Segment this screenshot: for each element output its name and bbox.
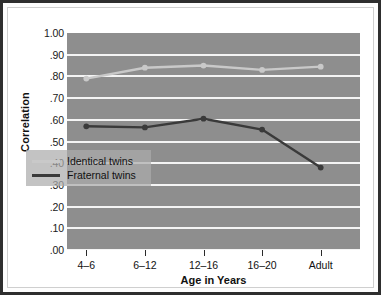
x-axis-tick-mark: [86, 250, 87, 256]
y-axis-tick-label: .10: [12, 222, 64, 234]
y-axis-tick-label: .20: [12, 201, 64, 213]
x-axis-title: Age in Years: [67, 274, 360, 286]
data-point: [83, 123, 89, 129]
legend-swatch-fraternal: [32, 174, 60, 177]
x-axis-tick-label: 16–20: [247, 259, 276, 271]
data-point: [259, 127, 265, 133]
data-point: [259, 67, 265, 73]
legend: Identical twins Fraternal twins: [26, 150, 151, 186]
x-axis-tick-mark: [262, 250, 263, 256]
y-axis-tick-label: .00: [12, 244, 64, 256]
x-axis-tick-label: 4–6: [78, 259, 96, 271]
data-point: [318, 165, 324, 171]
legend-item-identical: Identical twins: [32, 154, 145, 168]
x-axis-tick-label: Adult: [309, 259, 333, 271]
x-axis-tick-label: 6–12: [133, 259, 156, 271]
data-point: [142, 65, 148, 71]
plot-area: [67, 33, 360, 250]
y-axis-tick-label: .90: [12, 49, 64, 61]
data-point: [142, 124, 148, 130]
legend-swatch-identical: [32, 160, 60, 163]
series-svg: [67, 33, 360, 250]
legend-item-fraternal: Fraternal twins: [32, 168, 145, 182]
data-point: [201, 63, 207, 69]
figure-inner-frame: 1.00.90.80.70.60.50.40.30.20.10.00 Corre…: [7, 7, 374, 288]
x-axis-tick-mark: [145, 250, 146, 256]
data-point: [201, 116, 207, 122]
x-axis-tick-mark: [204, 250, 205, 256]
y-axis-tick-label: 1.00: [12, 27, 64, 39]
x-axis-tick-mark: [321, 250, 322, 256]
data-point: [318, 64, 324, 70]
legend-label-fraternal: Fraternal twins: [67, 169, 136, 181]
figure-frame: 1.00.90.80.70.60.50.40.30.20.10.00 Corre…: [0, 0, 381, 295]
legend-label-identical: Identical twins: [67, 155, 133, 167]
x-axis-tick-label: 12–16: [189, 259, 218, 271]
data-point: [83, 76, 89, 82]
